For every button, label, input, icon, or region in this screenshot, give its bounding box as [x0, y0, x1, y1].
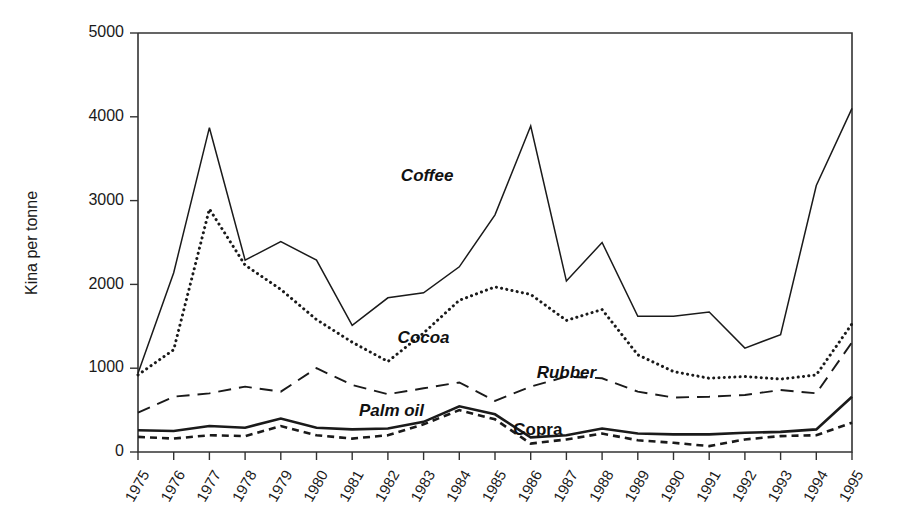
y-axis-title: Kina per tonne: [23, 191, 40, 295]
series-label-rubber: Rubber: [537, 363, 598, 382]
x-tick-label: 1980: [300, 467, 331, 504]
x-tick-label: 1979: [264, 467, 295, 504]
line-chart: 010002000300040005000 197519761977197819…: [0, 0, 898, 530]
x-axis: 1975197619771978197919801981198219831984…: [121, 452, 866, 504]
chart-container: 010002000300040005000 197519761977197819…: [0, 0, 898, 530]
x-tick-label: 1989: [621, 467, 652, 504]
x-tick-label: 1991: [692, 467, 723, 504]
series-label-group: CoffeeCocoaRubberPalm oilCopra: [359, 166, 598, 438]
y-axis: 010002000300040005000: [88, 23, 138, 459]
x-tick-label: 1995: [835, 467, 866, 504]
x-tick-label: 1992: [728, 467, 759, 504]
y-tick-label: 1000: [88, 358, 124, 375]
series-label-coffee: Coffee: [401, 166, 454, 185]
y-tick-label: 3000: [88, 191, 124, 208]
x-tick-label: 1978: [228, 467, 259, 504]
x-tick-label: 1977: [193, 467, 224, 504]
series-line-coffee: [138, 108, 852, 373]
data-series-group: [138, 108, 852, 446]
y-tick-label: 2000: [88, 275, 124, 292]
y-tick-label: 0: [115, 442, 124, 459]
plot-border: [138, 33, 852, 452]
x-tick-label: 1993: [764, 467, 795, 504]
series-label-cocoa: Cocoa: [398, 328, 450, 347]
x-tick-label: 1982: [371, 467, 402, 504]
x-tick-label: 1988: [585, 467, 616, 504]
series-label-copra: Copra: [513, 420, 563, 439]
x-tick-label: 1990: [657, 467, 688, 504]
y-tick-label: 5000: [88, 23, 124, 40]
y-tick-label: 4000: [88, 107, 124, 124]
series-line-palm-oil: [138, 397, 852, 438]
x-tick-label: 1986: [514, 467, 545, 504]
x-tick-label: 1975: [121, 467, 152, 504]
x-tick-label: 1981: [335, 467, 366, 504]
x-tick-label: 1994: [799, 467, 830, 504]
series-label-palm-oil: Palm oil: [359, 401, 425, 420]
x-tick-label: 1987: [550, 467, 581, 504]
series-line-cocoa: [138, 209, 852, 379]
x-tick-label: 1984: [442, 467, 473, 504]
x-tick-label: 1985: [478, 467, 509, 504]
x-tick-label: 1983: [407, 467, 438, 504]
x-tick-label: 1976: [157, 467, 188, 504]
plot-frame: [138, 33, 852, 452]
